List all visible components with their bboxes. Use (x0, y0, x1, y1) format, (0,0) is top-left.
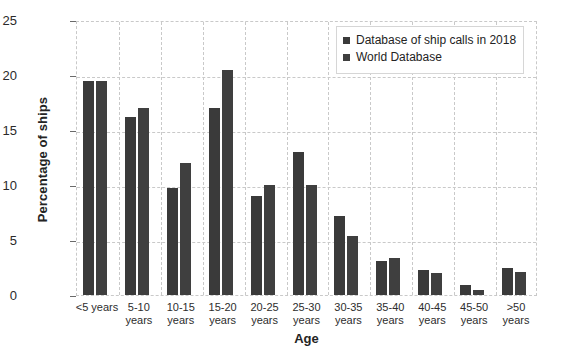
bar (418, 270, 429, 295)
bar (347, 236, 358, 295)
bar-chart: Percentage of ships 0510152025 <5 years5… (0, 0, 562, 359)
bar-group (77, 22, 119, 295)
x-tick-label: >50years (483, 301, 549, 326)
y-tick-label: 0 (0, 288, 17, 303)
bar (389, 258, 400, 295)
bar (251, 196, 262, 295)
bar (96, 81, 107, 296)
bar-group (245, 22, 287, 295)
bar (293, 152, 304, 295)
bar (460, 285, 471, 295)
x-axis-title: Age (76, 331, 537, 346)
bar (125, 117, 136, 295)
y-tick-label: 15 (0, 123, 17, 138)
bar (376, 261, 387, 295)
legend: Database of ship calls in 2018World Data… (336, 26, 524, 74)
bar (180, 163, 191, 295)
bar (83, 81, 94, 296)
x-tick-label-line1: 5-10 (128, 301, 150, 313)
bar (502, 268, 513, 296)
x-tick-label-line2: years (483, 314, 549, 327)
y-tick-label: 25 (0, 13, 17, 28)
legend-swatch-icon (343, 37, 350, 44)
bar (431, 273, 442, 295)
legend-label: World Database (356, 50, 442, 64)
y-tick-label: 20 (0, 68, 17, 83)
y-tick-label: 10 (0, 178, 17, 193)
bar-group (287, 22, 329, 295)
bar (334, 216, 345, 295)
bar (306, 185, 317, 295)
bar (264, 185, 275, 295)
y-tick-label: 5 (0, 233, 17, 248)
bar (515, 272, 526, 295)
bar-group (119, 22, 161, 295)
bar (209, 108, 220, 295)
legend-item: Database of ship calls in 2018 (343, 33, 516, 47)
x-tick-label-line1: >50 (507, 301, 526, 313)
y-axis-title: Percentage of ships (35, 60, 50, 260)
bar (138, 108, 149, 295)
legend-swatch-icon (343, 54, 350, 61)
bar (167, 188, 178, 295)
y-tick-mark (70, 296, 76, 297)
bar-group (203, 22, 245, 295)
legend-label: Database of ship calls in 2018 (356, 33, 516, 47)
legend-item: World Database (343, 50, 516, 64)
bar-group (161, 22, 203, 295)
bar (222, 70, 233, 296)
bar (473, 290, 484, 296)
